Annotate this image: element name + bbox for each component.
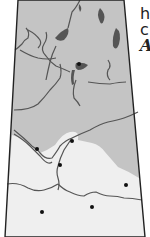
city-dot [58,163,62,167]
province-map [0,0,150,237]
city-dot [70,139,74,143]
city-dot [124,183,128,187]
clipped-text-line-3: A [140,38,150,54]
city-dot [90,205,94,209]
city-dot [77,62,81,66]
city-dot [35,147,39,151]
city-dot [40,210,44,214]
